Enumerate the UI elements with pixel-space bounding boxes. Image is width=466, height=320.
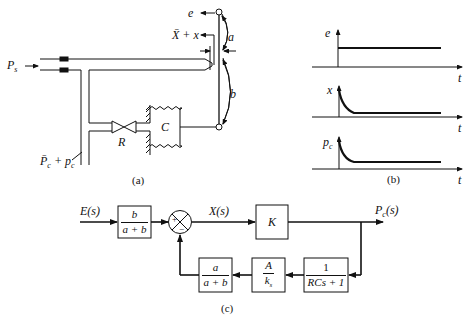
caption-a: (a): [132, 175, 144, 186]
lever-top-pivot: [216, 9, 222, 15]
orifice-upper: [60, 57, 68, 61]
plot-e-ylabel: e: [325, 27, 330, 39]
input-e-label: e: [188, 7, 193, 19]
plot-e-xlabel: t: [458, 72, 461, 84]
restriction-valve-right: [124, 121, 136, 133]
orifice-lower: [60, 68, 68, 72]
plot-x-xlabel: t: [458, 122, 461, 134]
feedback-block-3-label: a a + b: [199, 258, 232, 292]
output-Pc-label: Pc(s): [375, 204, 399, 219]
sum-minus-sign: −: [179, 225, 184, 234]
lever-arm-b-label: b: [230, 88, 236, 100]
input-E-label: E(s): [80, 205, 100, 217]
restriction-R-label: R: [118, 136, 125, 148]
plot-x-ylabel: x: [327, 84, 332, 96]
plot-pc-xlabel: t: [458, 174, 461, 186]
output-pressure-label: P̄c + pc: [40, 155, 75, 170]
lever-arm-a-label: a: [228, 31, 234, 43]
capacitance-C-label: C: [161, 121, 169, 133]
wall-hatching: [146, 106, 150, 153]
bellows-top: [150, 107, 182, 110]
caption-b: (b): [387, 174, 400, 185]
restriction-valve-left: [112, 121, 124, 133]
pneumatic-mechanism: [25, 9, 236, 165]
forward-gain-block-label: b a + b: [118, 206, 151, 238]
response-plots: [312, 30, 462, 169]
nozzle-gap-label: X̄ + x: [172, 29, 199, 41]
x-curve: [339, 90, 441, 113]
plot-pc-ylabel: pc: [323, 136, 333, 151]
error-X-label: X(s): [209, 205, 229, 217]
sum-plus-sign: +: [172, 215, 177, 224]
caption-c: (c): [221, 303, 233, 314]
lever-bottom-pivot: [216, 124, 222, 130]
feedback-block-1-label: 1 RCs + 1: [304, 258, 348, 292]
supply-pressure-label: Ps: [7, 59, 17, 74]
pc-curve: [339, 141, 441, 162]
controller-K-label: K: [256, 205, 288, 239]
bellows-bottom: [150, 145, 182, 148]
feedback-block-2-label: A ks: [252, 258, 285, 292]
